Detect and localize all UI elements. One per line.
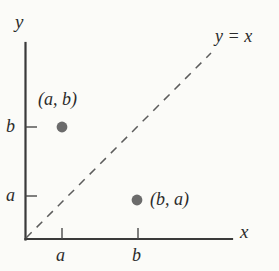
data-point-b-a (132, 195, 143, 206)
y-axis-label: y (15, 12, 23, 31)
identity-line-equation-label: y = x (215, 27, 252, 45)
x-axis-label: x (240, 222, 248, 241)
x-axis-tick-label-a: a (56, 246, 65, 264)
y-axis-tick-label-a: a (6, 186, 15, 204)
x-axis-tick-label-b: b (132, 246, 141, 264)
identity-line-dashed (26, 53, 211, 238)
data-point-a-b (57, 122, 68, 133)
y-axis-tick-label-b: b (6, 117, 15, 135)
data-point-label-b-a: (b, a) (150, 190, 189, 208)
data-point-label-a-b: (a, b) (38, 90, 77, 108)
reflection-about-y-equals-x-figure: y x y = x b a a b (a, b) (b, a) (0, 0, 279, 271)
